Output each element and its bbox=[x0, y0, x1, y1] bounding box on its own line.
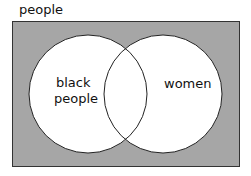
set-black-people-label-2: people bbox=[54, 91, 98, 106]
venn-diagram: black people women bbox=[0, 0, 251, 176]
set-black-people-label-1: black bbox=[56, 75, 91, 90]
set-women-label: women bbox=[164, 76, 212, 91]
set-women-fill bbox=[104, 35, 222, 153]
